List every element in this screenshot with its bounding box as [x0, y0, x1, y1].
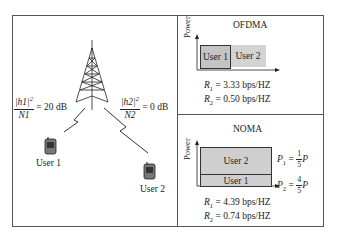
- noma-p1: P1 = 15P: [277, 150, 308, 169]
- ofdma-user1-block: User 1: [200, 45, 231, 69]
- user2-channel-gain: |h2|2N2 = 0 dB: [120, 96, 168, 120]
- user2-phone-icon: [143, 162, 157, 180]
- ofdma-title: OFDMA: [233, 20, 267, 30]
- cell-tower-icon: [70, 40, 115, 115]
- user1-channel-gain: |h1|2N1 = 20 dB: [14, 96, 67, 120]
- noma-user1-block: User 1: [200, 174, 272, 187]
- noma-r1: R1 = 4.39 bps/HZ: [204, 197, 271, 209]
- user1-phone-icon: [44, 137, 58, 155]
- user2-label: User 2: [140, 184, 165, 194]
- user1-label: User 1: [36, 158, 61, 168]
- noma-user2-block: User 2: [200, 147, 272, 175]
- ofdma-r2: R2 = 0.50 bps/HZ: [204, 94, 271, 106]
- vertical-divider: [177, 15, 178, 227]
- ofdma-r1: R1 = 3.33 bps/HZ: [204, 80, 271, 92]
- noma-y-axis-label: Power: [182, 138, 192, 160]
- noma-p2: P2 = 45P: [277, 176, 308, 195]
- horizontal-divider: [177, 114, 324, 115]
- ofdma-y-axis-label: Power: [182, 16, 192, 38]
- ofdma-user2-block: User 2: [230, 45, 266, 67]
- noma-r2: R2 = 0.74 bps/HZ: [204, 211, 271, 223]
- noma-title: NOMA: [233, 124, 262, 134]
